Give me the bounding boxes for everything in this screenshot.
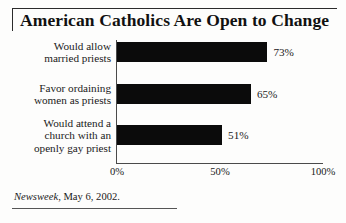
bar-category-label-line: church with an	[11, 129, 111, 141]
bar-category-label: Favor ordaining women as priests	[11, 82, 111, 107]
source-note: Newsweek, May 6, 2002.	[14, 191, 120, 202]
bar	[117, 84, 251, 104]
bar-category-label-line: women as priests	[11, 94, 111, 106]
title-top-rule	[12, 8, 337, 9]
bar-category-label: Would attend a church with an openly gay…	[11, 117, 111, 154]
bar-value-label: 65%	[257, 84, 278, 104]
bar-category-label-line: openly gay priest	[11, 142, 111, 154]
x-axis-tick-50: 50%	[210, 166, 229, 177]
x-axis-tick-100: 100%	[311, 166, 336, 177]
bar-category-label: Would allow married priests	[11, 40, 111, 65]
bar-category-label-line: Would allow	[11, 40, 111, 52]
bar-row: Favor ordaining women as priests 65%	[0, 82, 346, 116]
x-axis-tick-0: 0%	[110, 166, 124, 177]
bar-category-label-line: Favor ordaining	[11, 82, 111, 94]
source-date: , May 6, 2002.	[58, 191, 120, 202]
chart-figure: American Catholics Are Open to Change Wo…	[0, 0, 346, 223]
bar-value-label: 51%	[228, 125, 249, 145]
bar-row: Would attend a church with an openly gay…	[0, 123, 346, 157]
plot-area: Would allow married priests 73% Favor or…	[0, 38, 346, 166]
x-axis-line	[116, 163, 323, 164]
bar-row: Would allow married priests 73%	[0, 40, 346, 74]
bar	[117, 125, 222, 145]
source-bottom-rule	[12, 208, 177, 209]
bar-category-label-line: married priests	[11, 52, 111, 64]
bar-value-label: 73%	[273, 42, 294, 62]
source-publication: Newsweek	[14, 191, 58, 202]
bar	[117, 42, 267, 62]
chart-title: American Catholics Are Open to Change	[20, 10, 340, 30]
title-left-rule	[12, 9, 13, 31]
bar-category-label-line: Would attend a	[11, 117, 111, 129]
